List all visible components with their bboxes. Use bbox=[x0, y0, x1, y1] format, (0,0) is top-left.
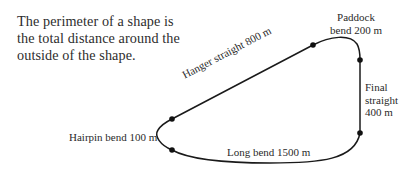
label-line: straight bbox=[365, 94, 398, 107]
label-line: bend 200 m bbox=[320, 24, 392, 37]
junction-dot bbox=[310, 42, 316, 48]
paddock-bend-path bbox=[313, 37, 360, 60]
label-line: 400 m bbox=[365, 106, 398, 119]
junction-dot bbox=[169, 147, 175, 153]
junction-dot bbox=[357, 130, 363, 136]
paddock-bend-label: Paddock bend 200 m bbox=[320, 11, 392, 36]
final-straight-label: Final straight 400 m bbox=[365, 81, 398, 119]
junction-dot bbox=[169, 116, 175, 122]
junction-dot bbox=[357, 57, 363, 63]
hairpin-bend-label: Hairpin bend 100 m bbox=[69, 131, 157, 144]
hanger-straight-path bbox=[172, 45, 313, 119]
long-bend-label: Long bend 1500 m bbox=[227, 146, 310, 159]
hairpin-bend-path bbox=[157, 119, 172, 150]
label-line: Paddock bbox=[320, 11, 392, 24]
label-line: Final bbox=[365, 81, 398, 94]
